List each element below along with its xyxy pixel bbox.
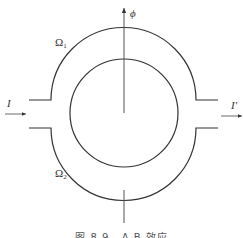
phi-label: ϕ	[130, 8, 136, 19]
omega2-symbol: Ω	[55, 167, 63, 179]
omega1-subscript: 1	[63, 42, 67, 50]
ab-effect-diagram	[0, 0, 243, 238]
omega1-label: Ω1	[55, 37, 67, 50]
lower-path-omega2	[29, 128, 218, 201]
figure-caption: 图 8.9 A-B 效应	[0, 229, 243, 238]
input-current-label: I	[7, 98, 11, 109]
omega2-subscript: 2	[63, 173, 67, 181]
omega1-symbol: Ω	[55, 36, 63, 48]
omega2-label: Ω2	[55, 168, 67, 181]
output-current-label: I′	[231, 100, 237, 111]
